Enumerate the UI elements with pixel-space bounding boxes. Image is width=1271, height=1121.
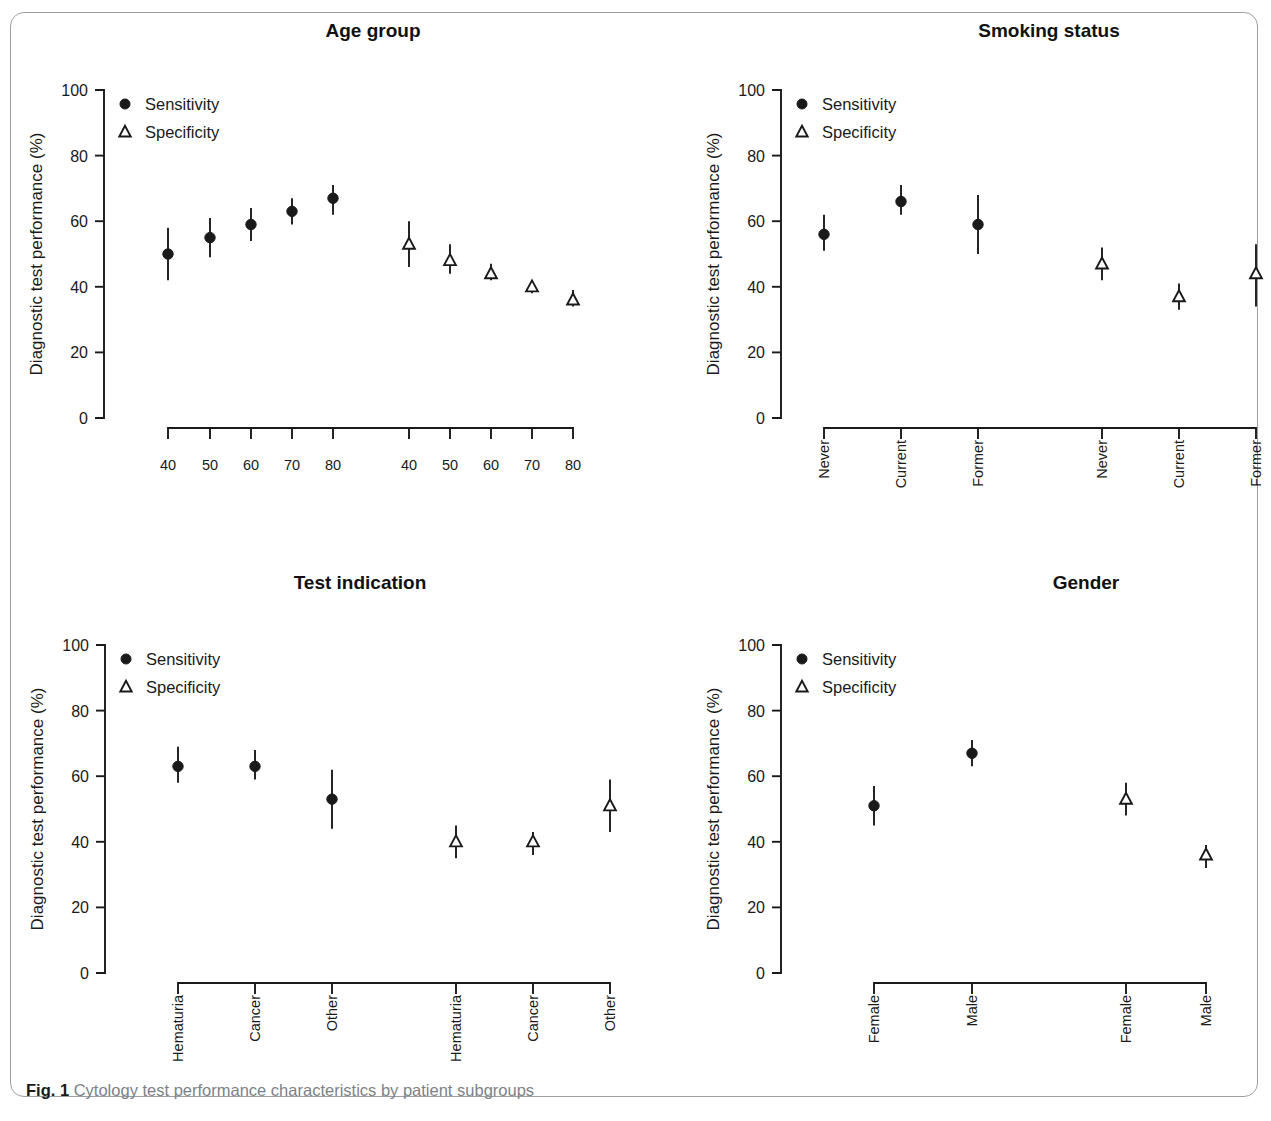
data-point-sensitivity: [163, 228, 173, 280]
data-point-sensitivity: [869, 786, 879, 825]
x-axis-category-label: 50: [442, 457, 458, 473]
data-point-specificity: [1120, 783, 1132, 816]
y-axis-tick-label: 100: [61, 82, 88, 99]
y-axis-tick-label: 20: [70, 344, 88, 361]
data-point-specificity: [1200, 845, 1212, 868]
y-axis-tick-label: 60: [70, 213, 88, 230]
x-axis-category-label: Female: [1118, 995, 1134, 1043]
y-axis-tick-label: 40: [70, 279, 88, 296]
data-point-sensitivity: [287, 198, 297, 224]
x-axis-category-label: Former: [1248, 440, 1264, 487]
x-axis-category-label: Male: [1198, 995, 1214, 1026]
legend-label-specificity: Specificity: [146, 678, 221, 696]
x-axis-category-label: 70: [284, 457, 300, 473]
figure-panels: Age group020406080100Diagnostic test per…: [0, 0, 1271, 1070]
x-axis-category-label: Never: [1094, 440, 1110, 479]
x-axis-line: [824, 428, 1256, 439]
data-point-sensitivity: [205, 218, 215, 257]
y-axis-tick-label: 0: [756, 410, 765, 427]
y-axis-tick-label: 80: [747, 148, 765, 165]
x-axis-category-label: 40: [160, 457, 176, 473]
data-point-sensitivity: [250, 750, 260, 780]
data-point-specificity: [527, 832, 539, 855]
x-axis-category-label: Former: [970, 440, 986, 487]
data-point-specificity: [567, 290, 579, 306]
figure-caption: Fig. 1 Cytology test performance charact…: [26, 1080, 1206, 1101]
panel-title: Smoking status: [978, 20, 1119, 41]
legend-label-specificity: Specificity: [822, 123, 897, 141]
y-axis-tick-label: 60: [747, 768, 765, 785]
y-axis-tick-label: 40: [747, 834, 765, 851]
y-axis-tick-label: 40: [747, 279, 765, 296]
data-point-sensitivity: [819, 215, 829, 251]
x-axis-category-label: Never: [816, 440, 832, 479]
x-axis-category-label: Male: [964, 995, 980, 1026]
y-axis-tick-label: 20: [747, 344, 765, 361]
x-axis-category-label: Other: [324, 995, 340, 1031]
data-point-specificity: [1173, 284, 1185, 310]
data-point-specificity: [485, 264, 497, 280]
x-axis-category-label: 70: [524, 457, 540, 473]
x-axis-category-label: Current: [1171, 440, 1187, 488]
data-point-specificity: [403, 221, 415, 267]
y-axis-tick-label: 60: [71, 768, 89, 785]
panel-smoking-status: Smoking status020406080100Diagnostic tes…: [636, 0, 1271, 545]
legend-label-specificity: Specificity: [145, 123, 220, 141]
x-axis-category-label: Other: [602, 995, 618, 1031]
data-point-specificity: [526, 280, 538, 293]
y-axis-line: [95, 90, 104, 418]
data-point-sensitivity: [328, 185, 338, 215]
y-axis-title: Diagnostic test performance (%): [704, 688, 723, 931]
x-axis-category-label: Hematuria: [448, 994, 464, 1062]
legend-label-sensitivity: Sensitivity: [146, 650, 221, 668]
legend-label-sensitivity: Sensitivity: [822, 95, 897, 113]
y-axis-title: Diagnostic test performance (%): [28, 688, 47, 931]
panel-gender: Gender020406080100Diagnostic test perfor…: [636, 545, 1271, 1070]
panel-title: Test indication: [294, 572, 427, 593]
y-axis-tick-label: 80: [70, 148, 88, 165]
y-axis-tick-label: 20: [71, 899, 89, 916]
y-axis-tick-label: 0: [80, 965, 89, 982]
data-point-sensitivity: [896, 185, 906, 215]
data-point-sensitivity: [967, 740, 977, 766]
legend-label-specificity: Specificity: [822, 678, 897, 696]
x-axis-line: [178, 983, 610, 994]
x-axis-category-label: 80: [325, 457, 341, 473]
legend-label-sensitivity: Sensitivity: [145, 95, 220, 113]
x-axis-category-label: Female: [866, 995, 882, 1043]
y-axis-tick-label: 60: [747, 213, 765, 230]
data-point-specificity: [450, 825, 462, 858]
x-axis-category-label: 60: [243, 457, 259, 473]
x-axis-category-label: Current: [893, 440, 909, 488]
y-axis-tick-label: 100: [738, 637, 765, 654]
data-point-sensitivity: [173, 747, 183, 783]
x-axis-line: [168, 428, 573, 439]
y-axis-tick-label: 80: [71, 703, 89, 720]
data-point-sensitivity: [327, 770, 337, 829]
caption-tag: Fig. 1: [26, 1081, 69, 1099]
y-axis-tick-label: 100: [62, 637, 89, 654]
legend: SensitivitySpecificity: [119, 95, 220, 141]
panel-title: Gender: [1053, 572, 1120, 593]
y-axis-tick-label: 0: [756, 965, 765, 982]
legend-label-sensitivity: Sensitivity: [822, 650, 897, 668]
x-axis-category-label: Hematuria: [170, 994, 186, 1062]
legend: SensitivitySpecificity: [120, 650, 221, 696]
data-point-specificity: [1096, 247, 1108, 280]
legend: SensitivitySpecificity: [796, 650, 897, 696]
y-axis-title: Diagnostic test performance (%): [27, 133, 46, 376]
y-axis-tick-label: 20: [747, 899, 765, 916]
x-axis-line: [874, 983, 1206, 994]
data-point-specificity: [1250, 244, 1262, 306]
data-point-specificity: [604, 779, 616, 831]
panel-title: Age group: [326, 20, 421, 41]
panel-test-indication: Test indication020406080100Diagnostic te…: [0, 545, 636, 1070]
x-axis-category-label: 80: [565, 457, 581, 473]
data-point-sensitivity: [973, 195, 983, 254]
x-axis-category-label: Cancer: [525, 995, 541, 1042]
x-axis-category-label: 60: [483, 457, 499, 473]
panel-age-group: Age group020406080100Diagnostic test per…: [0, 0, 636, 545]
y-axis-line: [772, 645, 781, 973]
data-point-sensitivity: [246, 208, 256, 241]
y-axis-tick-label: 40: [71, 834, 89, 851]
